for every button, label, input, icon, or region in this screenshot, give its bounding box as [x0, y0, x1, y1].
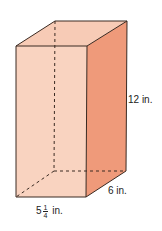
width-unit: in.: [52, 205, 63, 216]
depth-label: 6 in.: [108, 185, 127, 196]
height-label: 12 in.: [128, 94, 152, 105]
width-label: 514 in.: [36, 204, 63, 219]
rectangular-prism-diagram: [0, 0, 162, 231]
width-fraction-denominator: 4: [43, 212, 49, 219]
width-whole: 5: [36, 205, 42, 216]
width-fraction: 14: [43, 204, 49, 219]
width-fraction-numerator: 1: [43, 204, 49, 212]
front-face: [16, 46, 87, 197]
